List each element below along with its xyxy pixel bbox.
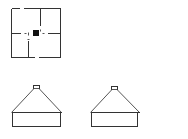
house-right: [91, 87, 140, 127]
maze-center-block: [33, 30, 39, 36]
house-left: [12, 86, 62, 127]
figure-canvas: [0, 0, 188, 139]
house-left-roof: [12, 89, 62, 113]
house-left-body: [13, 113, 61, 127]
house-right-roof: [91, 90, 140, 113]
house-right-body: [92, 113, 138, 127]
maze: [12, 9, 61, 58]
